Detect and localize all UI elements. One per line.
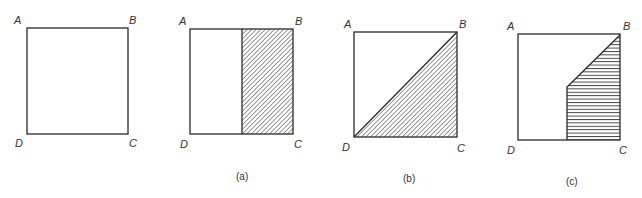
vertex-label-d: D [15,137,23,149]
vertex-label-b: B [623,20,630,32]
vertex-label-a: A [178,15,186,27]
panel-c: A B C D (c) [506,20,630,187]
panel-base: A B C D [13,14,137,149]
square-abcd [27,28,128,134]
vertex-label-a: A [506,20,514,32]
caption-c: (c) [566,176,578,187]
vertex-label-b: B [459,18,466,30]
vertex-label-b: B [295,15,302,27]
hatched-region [242,29,293,134]
panel-a: A B C D (a) [178,15,302,182]
caption-a: (a) [236,171,248,182]
vertex-label-b: B [129,14,136,26]
vertex-label-d: D [507,144,515,156]
vertex-label-a: A [13,14,21,26]
vertex-label-c: C [457,142,465,154]
hatched-region [567,35,620,140]
vertex-label-a: A [343,18,351,30]
caption-b: (b) [403,173,415,184]
vertex-label-c: C [294,138,302,150]
panel-b: A B C D (b) [342,18,466,184]
vertex-label-d: D [342,141,350,153]
vertex-label-c: C [619,144,627,156]
vertex-label-c: C [129,137,137,149]
figure-canvas: A B C D A B C D (a) A B C D (b) A B C D … [0,0,642,198]
vertex-label-d: D [180,138,188,150]
